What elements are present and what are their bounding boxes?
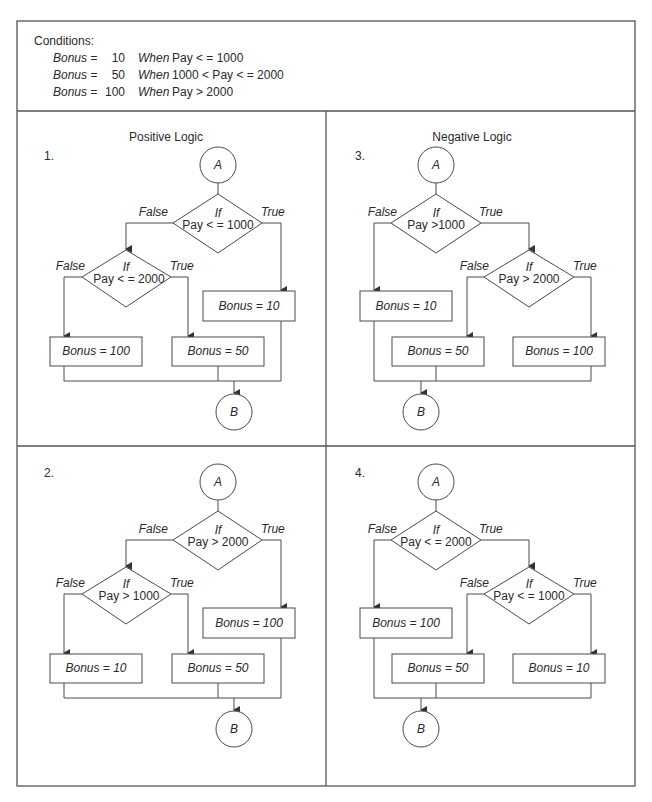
panel-1-positive-logic: Positive Logic 1. A If Pay < = 1000 Fals…	[44, 130, 295, 430]
condition-when: When	[138, 85, 170, 99]
panel-3-negative-logic: Negative Logic 3. A If Pay >1000 False T…	[355, 130, 605, 430]
false-label: False	[56, 576, 86, 590]
true-label: True	[479, 205, 503, 219]
process-label: Bonus = 50	[407, 661, 468, 675]
process-label: Bonus = 10	[375, 299, 436, 313]
connector-label: B	[417, 722, 425, 736]
panel-number: 1.	[44, 149, 54, 163]
process-label: Bonus = 10	[65, 661, 126, 675]
process-label: Bonus = 100	[215, 616, 283, 630]
true-label: True	[261, 205, 285, 219]
true-label: True	[573, 259, 597, 273]
connector-label: A	[213, 475, 222, 489]
process-label: Bonus = 10	[528, 661, 589, 675]
decision-condition: Pay > 2000	[498, 272, 559, 286]
decision-condition: Pay < = 1000	[182, 218, 254, 232]
connector-label: A	[431, 158, 440, 172]
panel-number: 4.	[355, 466, 365, 480]
condition-when: When	[138, 68, 170, 82]
connector-label: A	[431, 475, 440, 489]
connector-label: B	[417, 405, 425, 419]
flowchart-figure: Conditions: Bonus = 10 When Pay < = 1000…	[0, 0, 652, 802]
panel-title: Negative Logic	[432, 130, 511, 144]
true-label: True	[170, 259, 194, 273]
connector-label: B	[230, 405, 238, 419]
condition-rule: Pay < = 1000	[172, 51, 244, 65]
false-label: False	[368, 522, 398, 536]
connector-label: A	[213, 158, 222, 172]
true-label: True	[573, 576, 597, 590]
false-label: False	[368, 205, 398, 219]
conditions-heading: Conditions:	[34, 34, 94, 48]
decision-condition: Pay > 1000	[98, 589, 159, 603]
false-label: False	[460, 576, 490, 590]
condition-rule: Pay > 2000	[172, 85, 233, 99]
process-label: Bonus = 100	[62, 344, 130, 358]
decision-condition: Pay < = 2000	[93, 272, 165, 286]
decision-condition: Pay > 2000	[187, 535, 248, 549]
false-label: False	[139, 205, 169, 219]
condition-value: 10	[112, 51, 126, 65]
decision-condition: Pay < = 1000	[493, 589, 565, 603]
true-label: True	[170, 576, 194, 590]
condition-label: Bonus =	[53, 51, 97, 65]
connector-label: B	[230, 722, 238, 736]
panel-number: 2.	[44, 466, 54, 480]
process-label: Bonus = 100	[525, 344, 593, 358]
false-label: False	[460, 259, 490, 273]
condition-label: Bonus =	[53, 85, 97, 99]
decision-condition: Pay < = 2000	[400, 535, 472, 549]
process-label: Bonus = 10	[218, 299, 279, 313]
condition-value: 100	[105, 85, 125, 99]
panel-4: 4. A If Pay < = 2000 False True If Pay <…	[355, 464, 605, 747]
process-label: Bonus = 50	[407, 344, 468, 358]
panel-2: 2. A If Pay > 2000 False True If Pay > 1…	[44, 464, 295, 747]
panel-number: 3.	[355, 149, 365, 163]
panel-title: Positive Logic	[129, 130, 203, 144]
true-label: True	[479, 522, 503, 536]
condition-value: 50	[112, 68, 126, 82]
process-label: Bonus = 50	[187, 661, 248, 675]
condition-when: When	[138, 51, 170, 65]
condition-rule: 1000 < Pay < = 2000	[172, 68, 284, 82]
process-label: Bonus = 50	[187, 344, 248, 358]
false-label: False	[139, 522, 169, 536]
false-label: False	[56, 259, 86, 273]
conditions-block: Conditions: Bonus = 10 When Pay < = 1000…	[34, 34, 284, 99]
true-label: True	[261, 522, 285, 536]
condition-label: Bonus =	[53, 68, 97, 82]
process-label: Bonus = 100	[372, 616, 440, 630]
decision-condition: Pay >1000	[407, 218, 465, 232]
